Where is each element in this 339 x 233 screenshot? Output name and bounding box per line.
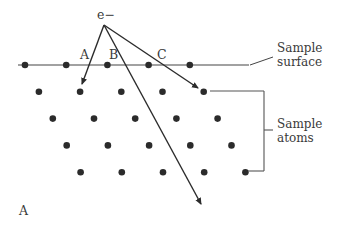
panel-label: A	[18, 203, 29, 218]
sample-atom	[118, 89, 125, 96]
sample-atom	[63, 62, 70, 69]
path-label-a: A	[79, 47, 90, 62]
sample-atom	[105, 142, 112, 149]
sample-atom	[104, 62, 111, 69]
electron-path-b	[104, 25, 201, 204]
atoms-label-line1: Sample	[277, 117, 322, 131]
sample-atom	[159, 89, 166, 96]
sample-atoms-lattice	[22, 62, 249, 176]
sample-atom	[187, 62, 194, 69]
surface-label-line1: Sample	[277, 41, 322, 55]
sample-atom	[145, 62, 152, 69]
sample-atom	[228, 142, 235, 149]
sample-atom	[91, 115, 98, 122]
sample-atom	[77, 169, 84, 176]
electron-label: e−	[97, 7, 115, 22]
path-label-c: C	[157, 47, 167, 62]
sample-atom	[200, 89, 207, 96]
sample-atom	[22, 62, 29, 69]
sample-atom	[160, 169, 167, 176]
sample-atom	[132, 115, 139, 122]
sample-atom	[187, 142, 194, 149]
sample-atom	[63, 142, 70, 149]
sample-atom	[50, 115, 57, 122]
electron-scattering-diagram: e− A B C Sample surface Sample atoms A	[0, 0, 339, 233]
sample-atom	[201, 169, 208, 176]
sample-atom	[242, 169, 249, 176]
sample-atom	[119, 169, 126, 176]
atoms-label-line2: atoms	[277, 131, 314, 145]
path-label-b: B	[109, 47, 118, 62]
sample-atom	[173, 115, 180, 122]
sample-atom	[36, 89, 43, 96]
sample-atom	[214, 115, 221, 122]
atoms-bracket	[210, 91, 273, 171]
surface-label-line2: surface	[277, 55, 322, 69]
surface-leader-line	[250, 57, 273, 65]
sample-atom	[77, 89, 84, 96]
sample-atom	[146, 142, 153, 149]
